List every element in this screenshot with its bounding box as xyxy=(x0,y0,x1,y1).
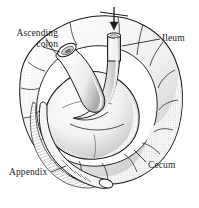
label-cecum: Cecum xyxy=(148,160,175,171)
label-ascending-colon-line2: colon xyxy=(36,39,58,49)
label-ascending-colon: Ascending colon xyxy=(6,28,58,49)
label-appendix: Appendix xyxy=(9,167,47,178)
label-ascending-colon-line1: Ascending xyxy=(16,28,58,38)
label-ileum: Ileum xyxy=(162,33,185,44)
anatomy-figure: Ascending colon Ileum Cecum Appendix xyxy=(0,0,199,208)
